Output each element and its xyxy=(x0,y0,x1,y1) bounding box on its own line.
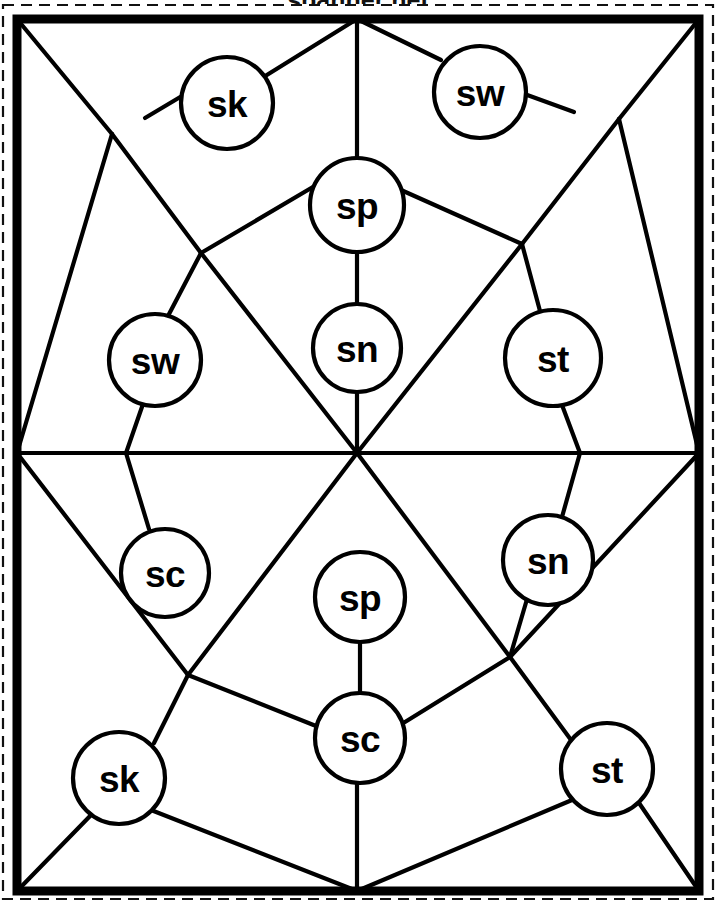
node-label: sk xyxy=(99,759,140,800)
network-node-st[interactable]: st xyxy=(561,723,653,815)
network-node-sw[interactable]: sw xyxy=(434,46,526,138)
node-label: st xyxy=(591,750,623,791)
node-label: sw xyxy=(456,73,505,114)
network-node-sp[interactable]: sp xyxy=(310,158,404,252)
node-label: sp xyxy=(336,186,378,227)
network-node-sn[interactable]: sn xyxy=(503,515,593,605)
node-label: sc xyxy=(145,554,185,595)
network-node-sc[interactable]: sc xyxy=(315,693,405,783)
network-node-sk[interactable]: sk xyxy=(73,732,165,824)
network-node-sn[interactable]: sn xyxy=(313,304,401,392)
node-label: sn xyxy=(336,329,378,370)
figure-root: spanner net skswspsnswstscsnspscskst xyxy=(0,0,716,904)
node-label: st xyxy=(537,339,569,380)
network-node-st[interactable]: st xyxy=(505,310,601,406)
network-node-sw[interactable]: sw xyxy=(109,314,201,406)
network-node-sc[interactable]: sc xyxy=(121,529,209,617)
node-label: sp xyxy=(339,578,381,619)
network-node-sp[interactable]: sp xyxy=(315,552,405,642)
spanner-network-diagram: skswspsnswstscsnspscskst xyxy=(0,0,716,904)
network-node-sk[interactable]: sk xyxy=(181,57,273,149)
node-label: sn xyxy=(527,541,569,582)
node-label: sw xyxy=(131,341,180,382)
node-label: sc xyxy=(340,719,380,760)
node-label: sk xyxy=(207,84,248,125)
